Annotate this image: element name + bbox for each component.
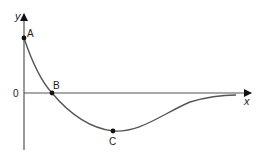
graph-canvas: y x 0 A B C — [0, 0, 259, 153]
point-c — [111, 129, 116, 134]
y-axis-label: y — [14, 10, 22, 22]
origin-label: 0 — [13, 88, 19, 99]
x-axis-label: x — [243, 95, 250, 107]
point-a — [22, 36, 27, 41]
point-b — [50, 91, 55, 96]
label-c: C — [109, 136, 116, 147]
label-b: B — [53, 80, 60, 91]
label-a: A — [27, 28, 34, 39]
